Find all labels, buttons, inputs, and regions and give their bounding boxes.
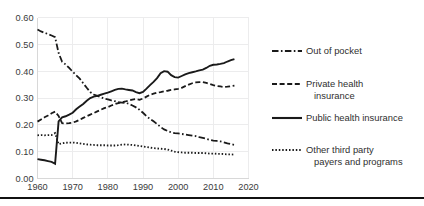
legend-entry-label-line2: insurance <box>314 90 355 101</box>
legend-entry-label: Out of pocket <box>306 45 362 56</box>
legend-entry-label: Other third party <box>306 144 374 155</box>
y-axis-tick-label: 0.50 <box>16 40 34 50</box>
y-axis-tick-label: 0.10 <box>16 147 34 157</box>
y-axis-tick-label: 0.20 <box>16 120 34 130</box>
x-axis-tick-label: 1980 <box>98 182 118 192</box>
legend-entry-label-line2: payers and programs <box>314 156 403 167</box>
legend-entry-label: Private health <box>306 78 363 89</box>
y-axis-tick-label: 0.40 <box>16 67 34 77</box>
legend-entry-label: Public health insurance <box>306 112 403 123</box>
y-axis-tick-label: 0.60 <box>16 13 34 23</box>
x-axis-tick-label: 2000 <box>168 182 188 192</box>
chart-figure: 0.000.100.200.300.400.500.60 19601970198… <box>0 0 424 206</box>
x-axis-tick-label: 1970 <box>62 182 82 192</box>
x-axis-tick-label: 1990 <box>133 182 153 192</box>
y-axis-tick-label: 0.30 <box>16 93 34 103</box>
x-axis-tick-label: 2010 <box>203 182 223 192</box>
line-chart: 0.000.100.200.300.400.500.60 19601970198… <box>0 0 424 206</box>
chart-background <box>0 0 424 206</box>
x-axis-tick-label: 1960 <box>27 182 47 192</box>
x-axis-tick-label: 2020 <box>238 182 258 192</box>
